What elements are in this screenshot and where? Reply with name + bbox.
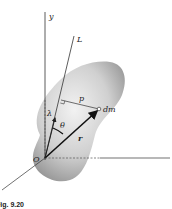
angle-theta-label: θ — [60, 121, 65, 130]
axis-L-label: L — [76, 35, 82, 44]
figure-caption: Fig. 9.20 — [0, 201, 24, 209]
mass-element-point — [97, 107, 101, 111]
mass-element-label: dm — [103, 105, 116, 114]
unit-vector-label: λ — [46, 109, 52, 118]
y-axis-label: y — [48, 12, 54, 21]
origin-label: O — [33, 155, 40, 164]
moment-of-inertia-diagram: y L p dm r λ θ O Fig. 9.20 — [0, 0, 172, 209]
distance-p-label: p — [79, 94, 84, 103]
rigid-body-shape — [33, 62, 125, 182]
